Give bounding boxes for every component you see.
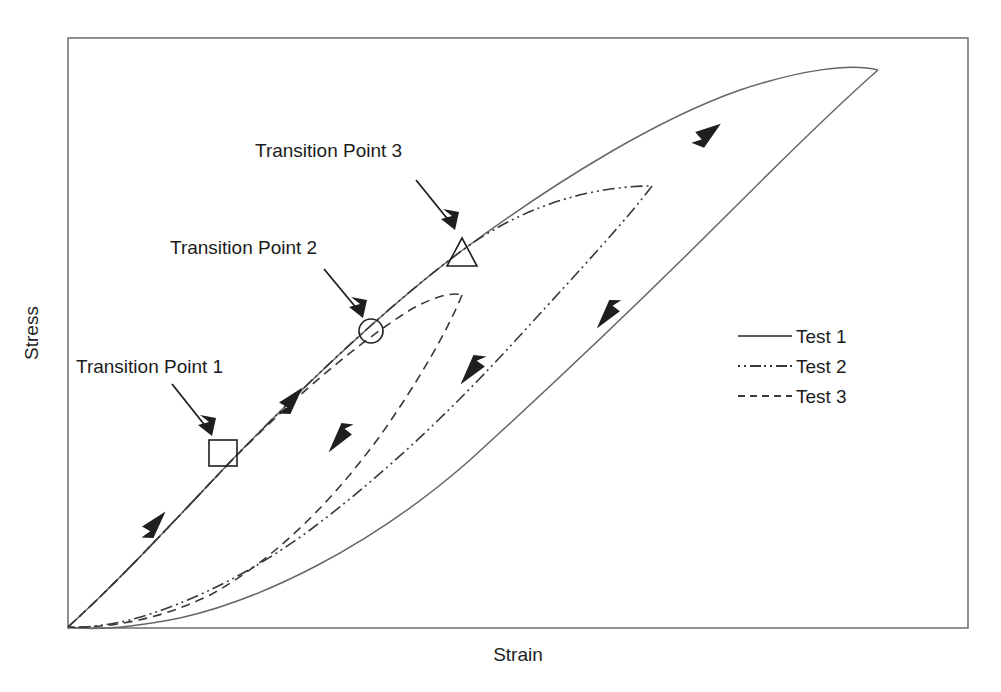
direction-arrow-icon (327, 423, 354, 453)
legend-label-test-3: Test 3 (796, 386, 847, 407)
series-test-2 (68, 186, 652, 627)
transition-point-1-label: Transition Point 1 (76, 356, 223, 377)
transition-point-3-leader-arrowhead (441, 209, 459, 230)
legend-label-test-1: Test 1 (796, 326, 847, 347)
transition-point-1-square-marker (209, 440, 237, 466)
legend-label-test-2: Test 2 (796, 356, 847, 377)
test-3-loading-branch (68, 294, 462, 627)
legend: Test 1 Test 2 Test 3 (738, 326, 847, 407)
x-axis-label: Strain (493, 644, 543, 665)
series-test-3 (68, 294, 462, 627)
direction-arrow-icon (459, 354, 487, 384)
series-test-1 (68, 67, 878, 628)
direction-arrow-icon (595, 299, 622, 328)
transition-point-2-leader-arrowhead (349, 297, 367, 318)
y-axis-label: Stress (21, 306, 42, 360)
transition-point-2-leader-line (324, 269, 358, 310)
transition-point-3-leader-line (416, 180, 450, 222)
legend-item-test-1[interactable]: Test 1 (738, 326, 847, 347)
chart-canvas: Transition Point 3 Transition Point 2 Tr… (0, 0, 1001, 692)
test-3-unloading-branch (68, 295, 462, 627)
transition-point-3-label: Transition Point 3 (255, 140, 402, 161)
test-2-unloading-branch (68, 186, 652, 627)
legend-item-test-2[interactable]: Test 2 (738, 356, 847, 377)
direction-arrow-icon (141, 512, 167, 539)
transition-point-1-leader-line (172, 384, 207, 428)
annotation-leader-arrows (172, 180, 459, 436)
direction-arrow-markers (141, 122, 721, 539)
test-2-loading-branch (68, 186, 652, 627)
transition-point-2-label: Transition Point 2 (170, 237, 317, 258)
legend-item-test-3[interactable]: Test 3 (738, 386, 847, 407)
stress-strain-hysteresis-figure: Transition Point 3 Transition Point 2 Tr… (0, 0, 1001, 692)
direction-arrow-icon (691, 122, 721, 149)
transition-point-2-circle-marker (359, 319, 383, 343)
test-1-loading-branch (68, 67, 878, 627)
test-1-unloading-branch (68, 70, 878, 628)
transition-point-1-leader-arrowhead (198, 415, 216, 436)
